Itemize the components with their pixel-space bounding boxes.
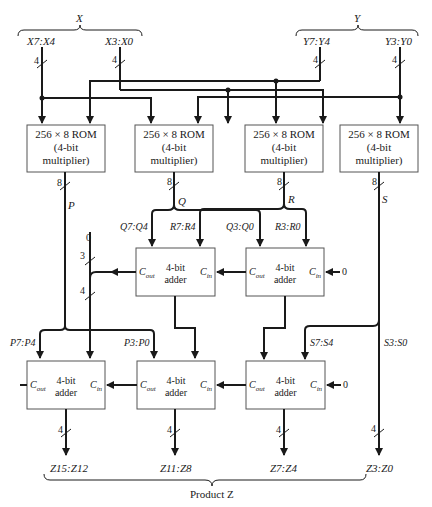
- q-label: Q: [178, 196, 186, 207]
- r-label: R: [288, 194, 295, 205]
- y-low-width: 4: [392, 55, 397, 65]
- adder-r2r-zero: 0: [343, 380, 348, 390]
- out-1-label: Z15:Z12: [50, 463, 88, 474]
- rom-2-width: 8: [167, 177, 172, 187]
- out-3-width: 4: [276, 425, 281, 435]
- width-3-label: 3: [80, 251, 85, 261]
- rom-4-width: 8: [372, 177, 377, 187]
- x-low-width: 4: [112, 55, 117, 65]
- adder-r2l-cin: Cin: [90, 380, 102, 393]
- product-brace: [44, 474, 366, 486]
- adder-r2m-cin: Cin: [200, 380, 212, 393]
- rom-1-width: 8: [57, 178, 62, 188]
- x-high-width: 4: [34, 56, 39, 66]
- rom-1-text: 256 × 8 ROM(4-bitmultiplier): [27, 128, 105, 168]
- x-low-label: X3:X0: [105, 36, 133, 47]
- q-low-label: Q3:Q0: [226, 222, 254, 232]
- r-high-label: R7:R4: [170, 222, 196, 232]
- zero-input-label: 0: [86, 233, 91, 243]
- width-4-label: 4: [80, 286, 85, 296]
- s-low-label: S3:S0: [384, 338, 407, 348]
- y-high-label: Y7:Y4: [303, 36, 330, 47]
- p-high-label: P7:P4: [10, 338, 36, 348]
- s-high-label: S7:S4: [310, 338, 333, 348]
- y-high-width: 4: [313, 55, 318, 65]
- s-label: S: [382, 194, 388, 205]
- adder-r1r-cin: Cin: [309, 267, 321, 280]
- y-low-label: Y3:Y0: [385, 36, 412, 47]
- out-2-width: 4: [167, 425, 172, 435]
- out-1-width: 4: [58, 425, 63, 435]
- out-3-label: Z7:Z4: [270, 463, 297, 474]
- x-high-label: X7:X4: [27, 36, 55, 47]
- adder-r1r-zero: 0: [342, 267, 347, 277]
- rom-3-width: 8: [277, 177, 282, 187]
- q-high-label: Q7:Q4: [120, 222, 148, 232]
- p-low-label: P3:P0: [124, 338, 150, 348]
- adder-r1l-cin: Cin: [200, 267, 212, 280]
- x-label: X: [76, 13, 83, 24]
- y-label: Y: [354, 13, 360, 24]
- p-label: P: [68, 200, 75, 211]
- out-4-width: 4: [371, 424, 376, 434]
- rom-2-text: 256 × 8 ROM(4-bitmultiplier): [135, 128, 213, 168]
- product-label: Product Z: [190, 489, 234, 500]
- out-2-label: Z11:Z8: [160, 463, 192, 474]
- multiplier-circuit-diagram: [0, 0, 432, 507]
- r-low-label: R3:R0: [275, 222, 301, 232]
- rom-4-text: 256 × 8 ROM(4-bitmultiplier): [340, 128, 418, 168]
- out-4-label: Z3:Z0: [366, 463, 393, 474]
- rom-3-text: 256 × 8 ROM(4-bitmultiplier): [245, 128, 323, 168]
- adder-r2r-cin: Cin: [310, 380, 322, 393]
